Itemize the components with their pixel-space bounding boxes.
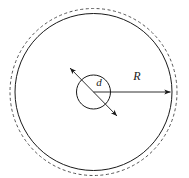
diameter-label: d xyxy=(96,76,102,88)
radius-label: R xyxy=(132,69,141,83)
figure-container: d R xyxy=(0,0,189,178)
circle-diagram-svg: d R xyxy=(0,0,189,178)
